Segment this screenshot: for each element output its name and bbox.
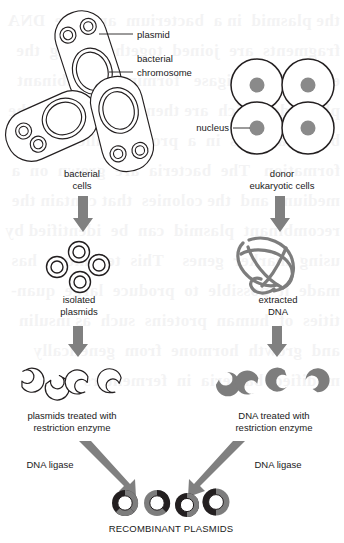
label-nucleus: nucleus: [196, 122, 229, 133]
nucleus-dot: [301, 121, 316, 136]
bacterial-cells-group: [0, 4, 159, 177]
eukaryotic-cells-group: [231, 59, 334, 154]
label-plasmid: plasmid: [137, 29, 170, 40]
label-plasmids-cut-line1: plasmids treated with: [27, 410, 116, 421]
label-isolated-plasmids-line2: plasmids: [60, 306, 98, 317]
isolated-plasmids-group: [47, 242, 110, 293]
figure-root: the plasmid in a bacterium and the DNA f…: [0, 0, 344, 543]
nucleus-dot: [250, 78, 265, 93]
label-bacterial-chromosome-line1: bacterial: [137, 53, 173, 64]
extracted-dna-tangle: [238, 238, 294, 293]
cut-dna-fragment: [301, 364, 333, 396]
label-dna-ligase-left: DNA ligase: [27, 459, 74, 470]
label-bacterial-cells-line1: bacterial: [64, 168, 100, 179]
cut-plasmid-fragment: [93, 364, 127, 398]
label-dna-ligase-right: DNA ligase: [255, 459, 302, 470]
cut-dna-fragments-group: [212, 364, 334, 400]
cut-dna-fragment: [263, 365, 292, 394]
nucleus-dot: [250, 121, 265, 136]
label-recombinant-plasmids: RECOMBINANT PLASMIDS: [109, 523, 234, 534]
cut-plasmid-fragment: [15, 364, 48, 397]
recombinant-plasmid-3: [175, 493, 199, 517]
eukaryotic-cell-4: [282, 102, 334, 154]
bacterial-cell-3: [85, 71, 159, 177]
cut-plasmid-fragments-group: [15, 364, 126, 401]
cut-dna-fragment: [230, 366, 264, 400]
label-dna-cut-line1: DNA treated with: [238, 410, 309, 421]
label-isolated-plasmids-line1: isolated: [63, 294, 96, 305]
label-dna-cut-line2: restriction enzyme: [235, 422, 312, 433]
label-plasmids-cut-line2: restriction enzyme: [33, 422, 110, 433]
recombinant-plasmid-1: [112, 490, 138, 516]
isolated-plasmid: [70, 272, 91, 293]
label-donor-cells-line2: eukaryotic cells: [250, 180, 315, 191]
nucleus-dot: [301, 78, 316, 93]
arrow-dna-to-cut: [267, 326, 287, 357]
arrow-ligase-left: [79, 441, 136, 497]
label-bacterial-cells-line2: cells: [72, 180, 91, 191]
recombinant-plasmids-group: [112, 489, 230, 518]
label-bacterial-chromosome-line2: chromosome: [137, 67, 192, 78]
isolated-plasmid: [69, 242, 90, 263]
recombinant-plasmid-diagram: plasmid bacterial chromosome bacterial c…: [0, 0, 344, 543]
label-extracted-dna-line2: DNA: [268, 306, 289, 317]
label-extracted-dna-line1: extracted: [258, 294, 297, 305]
isolated-plasmid: [89, 255, 110, 276]
arrow-bacteria-to-plasmids: [73, 196, 93, 232]
arrow-plasmids-to-cut: [68, 326, 88, 357]
isolated-plasmid: [47, 257, 68, 278]
recombinant-plasmid-4: [203, 489, 230, 516]
arrow-eukaryotes-to-dna: [270, 196, 290, 232]
recombinant-plasmid-2: [144, 490, 170, 516]
label-donor-cells-line1: donor: [270, 168, 294, 179]
